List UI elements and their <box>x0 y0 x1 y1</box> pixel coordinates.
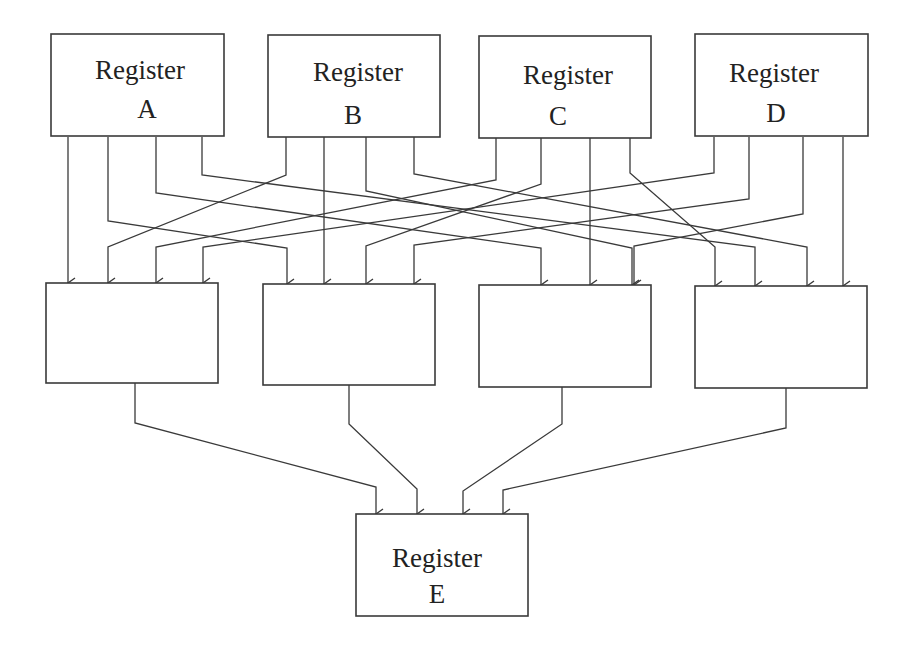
middle-unit-4 <box>695 286 867 388</box>
register-b-letter: B <box>344 100 362 130</box>
register-a: Register A <box>51 34 224 136</box>
register-c-title: Register <box>523 60 613 90</box>
register-b-title: Register <box>313 57 403 87</box>
register-d-letter: D <box>766 98 786 128</box>
middle-unit-3 <box>479 285 651 387</box>
wires-to-e <box>135 383 786 514</box>
register-diagram: Register A Register B Register C Registe… <box>0 0 917 650</box>
wires-from-d <box>203 137 843 286</box>
register-e: Register E <box>356 514 528 616</box>
wires-from-b <box>108 137 807 286</box>
register-d-title: Register <box>729 58 819 88</box>
register-c-letter: C <box>549 101 567 131</box>
register-d: Register D <box>695 34 868 136</box>
register-c: Register C <box>479 36 651 138</box>
register-e-title: Register <box>392 543 482 573</box>
register-b: Register B <box>268 35 440 137</box>
wires-from-c <box>156 138 715 286</box>
middle-unit-2 <box>263 284 435 385</box>
register-a-letter: A <box>137 94 157 124</box>
register-e-letter: E <box>429 579 446 609</box>
register-a-title: Register <box>95 55 185 85</box>
wires-from-a <box>68 137 755 286</box>
middle-unit-1 <box>46 283 218 383</box>
